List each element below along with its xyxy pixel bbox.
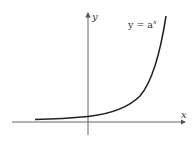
curve-label-exponent: x (153, 18, 157, 26)
curve-label-base: y = a (127, 19, 153, 30)
x-axis-label: x (181, 109, 187, 120)
exponential-curve (35, 16, 166, 120)
exponential-diagram: y x y = ax (0, 0, 193, 141)
curve-label: y = ax (127, 18, 157, 30)
y-axis-label: y (91, 11, 98, 22)
